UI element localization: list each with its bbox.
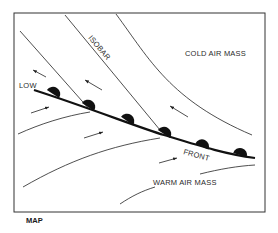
- isobar-line-3: [116, 14, 252, 135]
- warm-isobar-1: [18, 112, 90, 134]
- cold-air-mass-label: COLD AIR MASS: [185, 49, 246, 58]
- map-frame: [14, 13, 265, 212]
- warm-front-line: [34, 90, 255, 158]
- low-label: LOW: [19, 81, 37, 90]
- warm-isobar-3: [120, 187, 155, 204]
- front-label: FRONT: [182, 147, 210, 163]
- map-caption: MAP: [26, 216, 43, 225]
- weather-front-diagram: COLD AIR MASS WARM AIR MASS LOW ISOBAR F…: [0, 0, 278, 233]
- warm-air-mass-label: WARM AIR MASS: [153, 178, 217, 187]
- warm-isobar-4: [200, 165, 255, 174]
- arrow-icon-northwest: [33, 70, 46, 77]
- isobar-label: ISOBAR: [86, 34, 112, 63]
- arrow-icon-northeast: [159, 158, 177, 163]
- arrow-icon-northwest: [85, 80, 102, 90]
- front-semicircle: [195, 138, 211, 150]
- front-semicircles: [46, 85, 248, 157]
- isobar-line-2: [65, 15, 160, 130]
- warm-isobar-2: [23, 138, 160, 187]
- arrow-icon-northeast: [84, 132, 103, 138]
- arrow-icon-northeast: [31, 107, 49, 113]
- isobar-line-1: [20, 31, 90, 110]
- arrow-icon-northwest: [170, 106, 188, 117]
